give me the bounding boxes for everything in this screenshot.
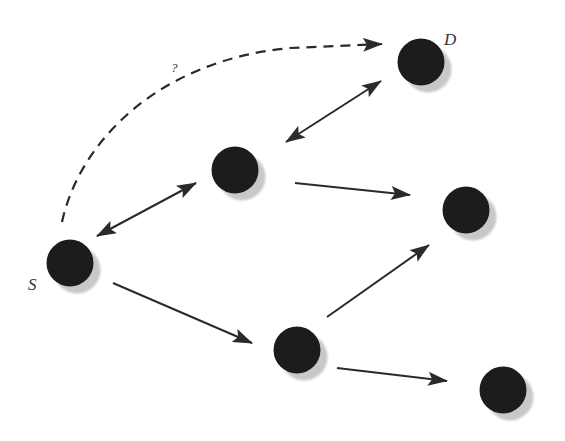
node-s: S (28, 240, 101, 295)
node-circle (47, 240, 94, 287)
unknown-route: ? (62, 44, 382, 222)
node-e (480, 367, 534, 421)
edge-s-c (113, 283, 252, 343)
edge-c-e (337, 368, 447, 381)
dashed-route-path (62, 44, 382, 222)
node-circle (398, 39, 445, 86)
node-label-s: S (28, 275, 37, 294)
node-a (212, 147, 266, 201)
nodes: SD (28, 30, 534, 421)
routing-diagram: ? SD (0, 0, 565, 441)
unknown-route-label: ? (171, 60, 178, 75)
edge-a-d (286, 81, 381, 142)
node-d: D (398, 30, 458, 93)
node-circle (443, 187, 490, 234)
node-b (443, 187, 497, 241)
node-circle (212, 147, 259, 194)
node-label-d: D (443, 30, 457, 49)
edge-c-b (327, 245, 429, 317)
edges (97, 81, 447, 381)
node-c (274, 327, 328, 381)
edge-s-a (97, 183, 196, 236)
node-circle (274, 327, 321, 374)
edge-a-b (295, 183, 410, 195)
node-circle (480, 367, 527, 414)
